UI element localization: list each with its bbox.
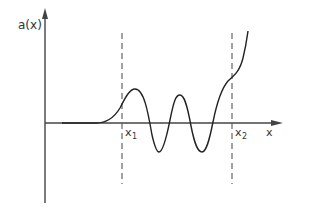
y-axis-label: a(x) — [18, 18, 42, 32]
function-curve — [62, 31, 248, 152]
x2-label: x 2 — [235, 126, 247, 141]
svg-text:x: x — [125, 126, 132, 139]
svg-text:1: 1 — [132, 132, 137, 141]
x-axis-label: x — [266, 126, 273, 139]
diagram-canvas: a(x) x x 1 x 2 — [0, 0, 311, 210]
svg-text:x: x — [235, 126, 242, 139]
x-axis-arrow-icon — [271, 120, 283, 126]
function-diagram: a(x) x x 1 x 2 — [0, 0, 311, 210]
svg-text:2: 2 — [242, 132, 247, 141]
y-axis-arrow-icon — [42, 8, 48, 19]
x1-label: x 1 — [125, 126, 137, 141]
